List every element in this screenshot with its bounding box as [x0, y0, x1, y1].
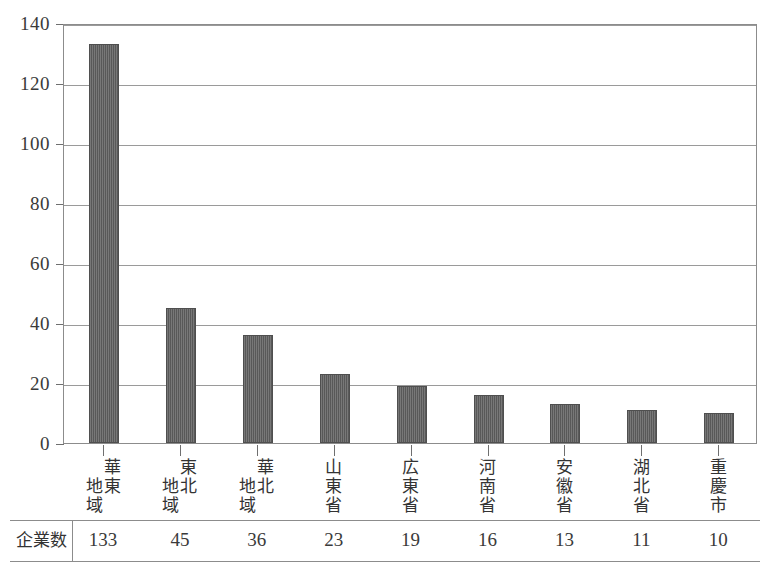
- x-category-label-column: 華東: [104, 458, 121, 496]
- table-cell: 10: [683, 530, 753, 550]
- bar: [243, 335, 273, 443]
- x-category-label-char: 省: [402, 496, 419, 515]
- gridline: [64, 205, 756, 206]
- x-category-label-column: 山東省: [325, 458, 342, 515]
- x-tick-mark: [411, 445, 412, 456]
- y-tick-label: 80: [6, 194, 50, 213]
- table-cell: 16: [453, 530, 523, 550]
- x-category-label-char: 河: [479, 458, 496, 477]
- y-tick-label: 20: [6, 374, 50, 393]
- table-cell: 19: [376, 530, 446, 550]
- x-tick-mark: [641, 445, 642, 456]
- x-category-label-char: 東: [402, 477, 419, 496]
- x-category-label-char: 湖: [633, 458, 650, 477]
- x-tick-mark: [257, 445, 258, 456]
- x-tick-mark: [334, 445, 335, 456]
- x-category-label: 華北地域: [226, 458, 288, 515]
- x-category-label-column: 広東省: [402, 458, 419, 515]
- x-category-label: 東北地域: [149, 458, 211, 515]
- y-tick-label: 100: [6, 134, 50, 153]
- gridline: [64, 25, 756, 26]
- x-category-label-char: 慶: [710, 477, 727, 496]
- x-category-label-column: 地域: [162, 477, 179, 515]
- x-category-label-char: 北: [180, 477, 197, 496]
- x-category-label-char: 域: [239, 496, 256, 515]
- x-category-label-char: 東: [104, 477, 121, 496]
- x-category-label: 山東省: [303, 458, 365, 515]
- y-tick-label: 0: [6, 434, 50, 453]
- x-category-label: 安徽省: [533, 458, 595, 515]
- x-category-label-char: 東: [325, 477, 342, 496]
- x-category-label-char: 省: [479, 496, 496, 515]
- x-category-label-char: 北: [257, 477, 274, 496]
- x-category-label-char: 南: [479, 477, 496, 496]
- x-tick-mark: [103, 445, 104, 456]
- x-category-label-char: 地: [239, 477, 256, 496]
- x-category-label-char: 重: [710, 458, 727, 477]
- chart-figure: 020406080100120140 華東地域東北地域華北地域山東省広東省河南省…: [0, 0, 772, 563]
- bar: [704, 413, 734, 443]
- x-category-label-column: 安徽省: [556, 458, 573, 515]
- y-tick-label: 120: [6, 74, 50, 93]
- bar: [166, 308, 196, 443]
- table-bottom-rule: [10, 561, 760, 562]
- x-category-label-char: 域: [162, 496, 179, 515]
- table-cell: 11: [606, 530, 676, 550]
- x-category-label-char: 市: [710, 496, 727, 515]
- x-category-label: 広東省: [380, 458, 442, 515]
- bar: [627, 410, 657, 443]
- x-category-label-char: 安: [556, 458, 573, 477]
- x-category-label-char: 華: [257, 458, 274, 477]
- x-category-label-char: 地: [86, 477, 103, 496]
- gridline: [64, 265, 756, 266]
- table-cell: 133: [68, 530, 138, 550]
- x-category-label-char: 山: [325, 458, 342, 477]
- x-category-label-column: 重慶市: [710, 458, 727, 515]
- bar: [397, 386, 427, 443]
- x-category-label-char: 徽: [556, 477, 573, 496]
- x-category-label-char: 域: [86, 496, 103, 515]
- table-row: 企業数 1334536231916131110: [10, 521, 760, 561]
- bar: [550, 404, 580, 443]
- bar: [89, 44, 119, 443]
- x-category-label-column: 湖北省: [633, 458, 650, 515]
- gridline: [64, 145, 756, 146]
- x-category-label-column: 東北: [180, 458, 197, 496]
- plot-area: [63, 24, 757, 444]
- x-category-label: 華東地域: [72, 458, 134, 515]
- x-tick-mark: [180, 445, 181, 456]
- table-cell: 13: [529, 530, 599, 550]
- y-tick-label: 60: [6, 254, 50, 273]
- x-category-label: 湖北省: [610, 458, 672, 515]
- x-category-label: 河南省: [457, 458, 519, 515]
- x-category-label: 重慶市: [687, 458, 749, 515]
- x-tick-mark: [718, 445, 719, 456]
- x-category-label-column: 地域: [239, 477, 256, 515]
- x-category-label-char: 省: [325, 496, 342, 515]
- gridline: [64, 85, 756, 86]
- x-category-label-char: 地: [162, 477, 179, 496]
- table-row-header: 企業数: [10, 530, 72, 550]
- x-category-label-char: 華: [104, 458, 121, 477]
- x-category-label-column: 河南省: [479, 458, 496, 515]
- table-cell: 45: [145, 530, 215, 550]
- data-table: 企業数 1334536231916131110: [10, 520, 760, 562]
- x-category-label-column: 地域: [86, 477, 103, 515]
- x-tick-mark: [564, 445, 565, 456]
- x-category-label-char: 省: [633, 496, 650, 515]
- x-category-label-char: 東: [180, 458, 197, 477]
- y-tick-mark: [56, 444, 64, 445]
- x-category-label-char: 北: [633, 477, 650, 496]
- table-cell: 36: [222, 530, 292, 550]
- x-tick-mark: [488, 445, 489, 456]
- x-category-label-column: 華北: [257, 458, 274, 496]
- table-cell: 23: [299, 530, 369, 550]
- x-category-label-char: 広: [402, 458, 419, 477]
- bar: [474, 395, 504, 443]
- x-category-label-char: 省: [556, 496, 573, 515]
- bar: [320, 374, 350, 443]
- y-tick-label: 40: [6, 314, 50, 333]
- y-tick-label: 140: [6, 14, 50, 33]
